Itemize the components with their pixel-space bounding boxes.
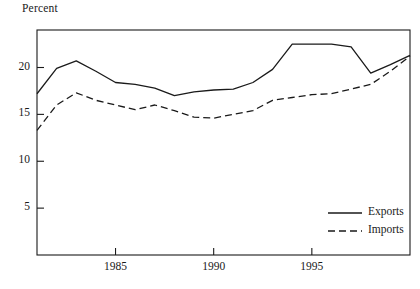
plot-frame	[37, 30, 410, 255]
y-tick-label: 10	[6, 153, 30, 165]
legend-swatches	[328, 213, 362, 231]
legend-label-exports: Exports	[368, 205, 404, 217]
chart-figure: Percent 5101520 198519901995 ExportsImpo…	[0, 0, 420, 289]
legend-label-imports: Imports	[368, 223, 404, 235]
x-tick-label: 1995	[290, 260, 334, 272]
data-series-group	[37, 44, 410, 130]
y-tick-label: 5	[6, 200, 30, 212]
x-tick-label: 1990	[192, 260, 236, 272]
series-line-imports	[37, 56, 410, 130]
x-axis-tick-marks	[116, 248, 312, 255]
y-tick-label: 15	[6, 106, 30, 118]
y-axis-title: Percent	[22, 2, 58, 14]
x-tick-label: 1985	[94, 260, 138, 272]
y-tick-label: 20	[6, 60, 30, 72]
line-chart-plot	[0, 0, 420, 289]
